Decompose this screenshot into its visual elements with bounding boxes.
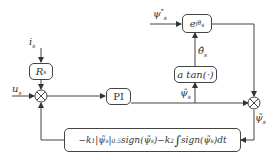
feedback-to-sum-arrow	[41, 103, 64, 140]
us-label: us	[12, 84, 22, 96]
pi-block: PI	[106, 88, 131, 105]
psi-hat-label: ψ̂s	[180, 88, 191, 100]
rs-block: Rs	[29, 63, 53, 80]
sum-to-feedback-arrow	[241, 110, 254, 140]
smc-feedback-block: −k1|ψ̃s|0.5sign(ψ̃s)−k2∫sign(ψ̃s)dt	[64, 128, 241, 152]
atan-block: a tan(·)	[174, 66, 217, 83]
theta-hat-label: θ̂s	[198, 46, 207, 58]
rot-to-sum-arrow	[212, 24, 254, 96]
psi-ref-label: ψ*s	[153, 8, 167, 21]
psi-tilde-label: ψ̃s	[255, 113, 266, 125]
is-label: is	[29, 37, 35, 49]
rotation-block: ejθ̂s	[182, 14, 212, 33]
